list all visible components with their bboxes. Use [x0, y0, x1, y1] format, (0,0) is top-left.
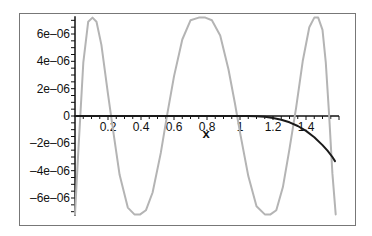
x-tick-label: 0.6 — [166, 120, 183, 134]
y-tick-label: 4e–06 — [37, 54, 71, 68]
y-tick-label: 0 — [63, 109, 70, 123]
y-tick-label: –2e–06 — [30, 136, 70, 150]
y-tick-label: 2e–06 — [37, 82, 71, 96]
y-tick-label: –4e–06 — [30, 164, 70, 178]
x-tick-label: 1.2 — [265, 120, 282, 134]
x-axis-title: x — [202, 126, 210, 141]
y-tick-label: –6e–06 — [30, 191, 70, 205]
y-tick-label: 6e–06 — [37, 27, 71, 41]
y-axis: 6e–064e–062e–060–2e–06–4e–06–6e–06 — [30, 16, 75, 216]
line-chart: 0.20.40.60.811.21.4 6e–064e–062e–060–2e–… — [0, 0, 372, 236]
x-tick-label: 0.4 — [133, 120, 150, 134]
